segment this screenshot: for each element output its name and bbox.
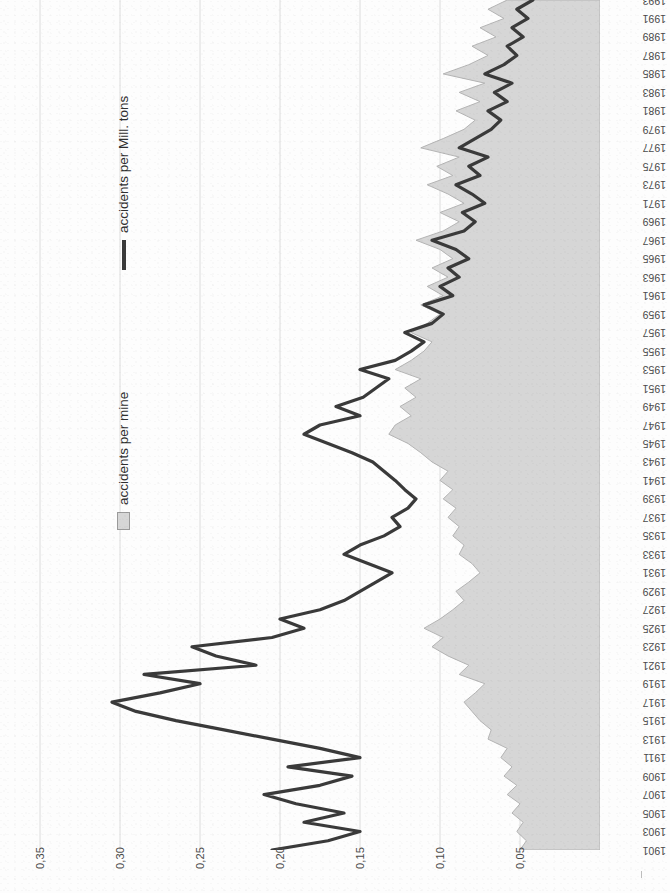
value-axis-tick-label: 0,10 [434, 840, 446, 876]
year-axis-tick-label: 1907 [608, 788, 666, 801]
year-axis-tick-label: 1937 [608, 511, 666, 524]
year-axis-tick-label: 1975 [608, 160, 666, 173]
year-axis-tick-label: 1977 [608, 141, 666, 154]
chart-figure: accidents per Mill. tons accidents per m… [0, 0, 670, 893]
value-axis-tick-label: 0,30 [114, 840, 126, 876]
year-axis-tick-label: 1951 [608, 382, 666, 395]
value-axis-tick-label: 0,35 [34, 840, 46, 876]
legend-area-label: accidents per mine [116, 392, 131, 505]
year-axis-tick-label: 1943 [608, 455, 666, 468]
year-axis-tick-label: 1927 [608, 603, 666, 616]
year-axis-tick-label: 1915 [608, 714, 666, 727]
year-axis-tick-label: 1981 [608, 104, 666, 117]
year-axis-tick-label: 1917 [608, 696, 666, 709]
year-axis-tick-label: 1963 [608, 271, 666, 284]
chart-svg [0, 0, 600, 850]
legend-area-swatch [117, 512, 130, 530]
year-axis-tick-label: 1983 [608, 86, 666, 99]
value-axis-tick-label: 0,20 [274, 840, 286, 876]
year-axis-tick-label: 1965 [608, 252, 666, 265]
legend-line-label: accidents per Mill. tons [116, 96, 131, 233]
year-axis-tick-label: 1913 [608, 733, 666, 746]
year-axis-tick-label: 1941 [608, 474, 666, 487]
year-axis-tick-label: 1979 [608, 123, 666, 136]
year-axis-tick-label: 1991 [608, 12, 666, 25]
year-axis-tick-label: 1901 [608, 844, 666, 857]
year-axis-tick-label: 1911 [608, 751, 666, 764]
scan-artifact [641, 871, 642, 878]
year-axis-tick-label: 1939 [608, 492, 666, 505]
year-axis-tick-label: 1905 [608, 807, 666, 820]
year-axis-tick-label: 1955 [608, 345, 666, 358]
year-axis-tick-label: 1919 [608, 677, 666, 690]
year-axis-tick-label: 1959 [608, 308, 666, 321]
year-axis-tick-label: 1967 [608, 234, 666, 247]
year-axis-tick-label: 1989 [608, 30, 666, 43]
legend-entry-accidents-per-mine: accidents per mine [116, 392, 131, 530]
plot-area: accidents per Mill. tons accidents per m… [0, 0, 600, 850]
year-axis-tick-label: 1949 [608, 400, 666, 413]
legend-entry-accidents-per-mill-tons: accidents per Mill. tons [116, 96, 131, 270]
year-axis-tick-label: 1971 [608, 197, 666, 210]
year-axis-tick-label: 1947 [608, 419, 666, 432]
value-axis: 0,350,300,250,200,150,100,05 [0, 850, 600, 893]
year-axis-tick-label: 1953 [608, 363, 666, 376]
year-axis-tick-label: 1903 [608, 825, 666, 838]
legend-line-swatch [122, 240, 126, 270]
value-axis-tick-label: 0,25 [194, 840, 206, 876]
year-axis-tick-label: 1987 [608, 49, 666, 62]
year-axis-tick-label: 1925 [608, 622, 666, 635]
year-axis-tick-label: 1985 [608, 67, 666, 80]
year-axis-tick-label: 1921 [608, 659, 666, 672]
year-axis-tick-label: 1957 [608, 326, 666, 339]
year-axis-tick-label: 1973 [608, 178, 666, 191]
year-axis-tick-label: 1969 [608, 215, 666, 228]
value-axis-tick-label: 0,15 [354, 840, 366, 876]
year-axis-tick-label: 1933 [608, 548, 666, 561]
year-axis: 1901190319051907190919111913191519171919… [604, 0, 670, 850]
value-axis-tick-label: 0,05 [514, 840, 526, 876]
year-axis-tick-label: 1935 [608, 529, 666, 542]
year-axis-tick-label: 1909 [608, 770, 666, 783]
year-axis-tick-label: 1931 [608, 566, 666, 579]
year-axis-tick-label: 1929 [608, 585, 666, 598]
year-axis-tick-label: 1945 [608, 437, 666, 450]
year-axis-tick-label: 1923 [608, 640, 666, 653]
year-axis-tick-label: 1993 [608, 0, 666, 7]
year-axis-tick-label: 1961 [608, 289, 666, 302]
